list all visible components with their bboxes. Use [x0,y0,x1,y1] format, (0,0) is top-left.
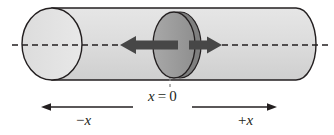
positive-x-label: +x [238,113,253,128]
diagram-vector-layer [0,0,334,135]
negative-x-variable: x [84,112,91,128]
positive-x-variable: x [246,112,253,128]
negative-x-arrow-head [41,103,51,111]
positive-x-arrow-head [267,103,277,111]
origin-label-value: = 0 [155,88,177,104]
physics-diagram-canvas: x = 0 −x +x [0,0,334,135]
negative-x-label: −x [76,113,91,128]
origin-label: x = 0 [148,89,177,104]
origin-label-variable: x [148,88,155,104]
cylinder-left-cap [22,8,82,80]
